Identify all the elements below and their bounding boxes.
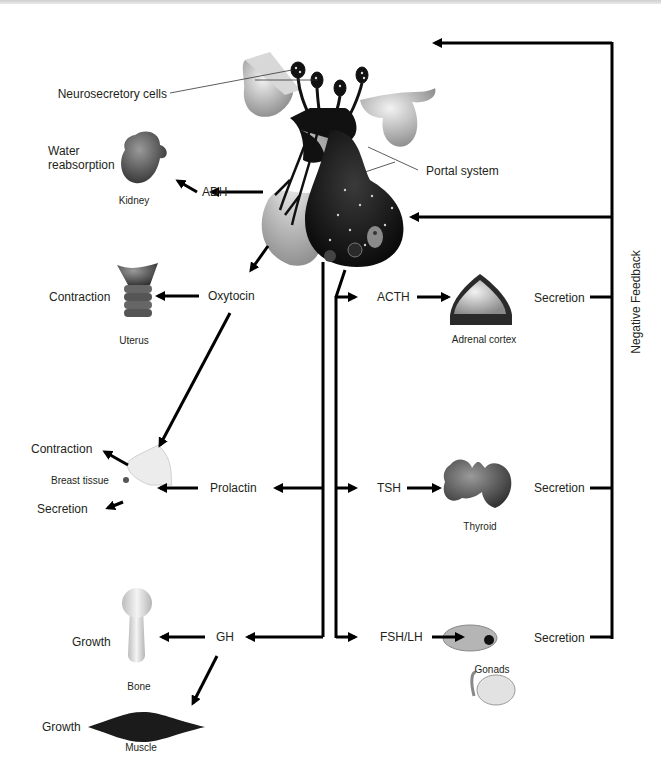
muscle-label: Muscle xyxy=(125,742,157,754)
thyroid-illustration xyxy=(444,459,512,508)
negative-feedback-label: Negative Feedback xyxy=(629,250,643,353)
adrenal-cortex-label: Adrenal cortex xyxy=(452,334,516,346)
oxytocin-label: Oxytocin xyxy=(208,289,255,303)
reabsorption-label: reabsorption xyxy=(48,158,115,172)
testis-illustration xyxy=(477,675,515,705)
adrenal-secretion-label: Secretion xyxy=(534,291,585,305)
thyroid-secretion-label: Secretion xyxy=(534,481,585,495)
acth-label: ACTH xyxy=(377,290,410,304)
adh-label: ADH xyxy=(202,185,227,199)
breast-contraction-label: Contraction xyxy=(31,442,92,456)
neurosecretory-cells-label: Neurosecretory cells xyxy=(58,87,167,101)
pituitary-hormone-diagram: Neurosecretory cells Portal system Water… xyxy=(0,0,661,781)
diagram-graphics xyxy=(0,0,661,781)
uterus-contraction-label: Contraction xyxy=(49,290,110,304)
breast-tissue-illustration xyxy=(127,445,172,485)
kidney-illustration xyxy=(121,132,167,184)
thyroid-label: Thyroid xyxy=(463,521,496,533)
breast-tissue-label: Breast tissue xyxy=(51,475,109,487)
gonads-secretion-label: Secretion xyxy=(534,631,585,645)
prolactin-label: Prolactin xyxy=(210,481,257,495)
kidney-label: Kidney xyxy=(119,195,150,207)
pituitary-gland-illustration xyxy=(243,52,436,267)
uterus-illustration xyxy=(117,263,158,317)
water-label: Water xyxy=(48,144,80,158)
bone-growth-label: Growth xyxy=(72,635,111,649)
uterus-label: Uterus xyxy=(119,335,148,347)
gonads-label: Gonads xyxy=(474,664,509,676)
muscle-illustration xyxy=(88,712,205,742)
breast-secretion-label: Secretion xyxy=(37,502,88,516)
bone-label: Bone xyxy=(127,681,150,693)
tsh-label: TSH xyxy=(377,481,401,495)
portal-system-label: Portal system xyxy=(426,164,499,178)
fsh-lh-label: FSH/LH xyxy=(380,630,423,644)
gh-label: GH xyxy=(216,630,234,644)
muscle-growth-label: Growth xyxy=(42,720,81,734)
